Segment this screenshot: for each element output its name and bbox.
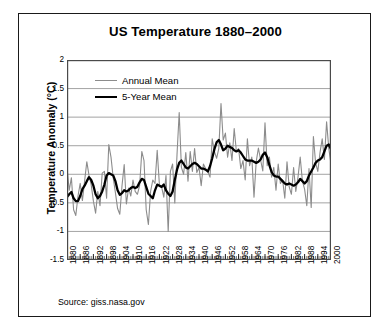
- y-axis-tick-label: 0.5: [53, 142, 64, 150]
- y-axis-tick-label: 0: [59, 170, 64, 178]
- legend-swatch-annual-mean-icon: [95, 80, 117, 81]
- x-axis-tick-label: 1928: [176, 246, 184, 264]
- y-axis-tick-label: 1: [59, 113, 64, 121]
- x-axis-tick-label: 1976: [281, 246, 289, 264]
- y-axis-tick-label: -1: [57, 227, 64, 235]
- x-axis-tick-label: 1880: [70, 246, 78, 264]
- legend-label-5-year-mean: 5-Year Mean: [122, 91, 177, 102]
- x-axis-tick-label: 1952: [229, 246, 237, 264]
- x-axis-tick-label: 1964: [255, 246, 263, 264]
- x-axis-tick-label: 1886: [83, 246, 91, 264]
- x-axis-tick-label: 1910: [136, 246, 144, 264]
- figure-frame: US Temperature 1880–2000 Temperature Ano…: [18, 13, 371, 317]
- x-axis-tick-label: 1982: [295, 246, 303, 264]
- x-axis-tick-label: 1892: [97, 246, 105, 264]
- x-axis-tick-label: 1988: [308, 246, 316, 264]
- x-axis-tick-label: 1946: [215, 246, 223, 264]
- x-axis-tick-label: 1994: [321, 246, 329, 264]
- y-axis-tick-labels: 21.510.50-0.5-1-1.5: [37, 60, 64, 261]
- y-axis-tick-label: -1.5: [50, 256, 64, 264]
- x-axis-tick-label: 1916: [149, 246, 157, 264]
- grid-lines: [67, 89, 331, 232]
- x-axis-tick-label: 1898: [110, 246, 118, 264]
- y-axis-tick-label: 2: [59, 56, 64, 64]
- x-axis-tick-label: 1970: [268, 246, 276, 264]
- x-axis-tick-label: 1904: [123, 246, 131, 264]
- y-axis-tick-label: 1.5: [53, 85, 64, 93]
- x-axis-tick-label: 1922: [163, 246, 171, 264]
- x-axis-tick-label: 1934: [189, 246, 197, 264]
- legend-label-annual-mean: Annual Mean: [122, 75, 179, 86]
- x-axis-tick-label: 1958: [242, 246, 250, 264]
- x-axis-tick-label: 2000: [334, 246, 342, 264]
- legend-item-annual-mean: Annual Mean: [95, 74, 225, 87]
- chart-title: US Temperature 1880–2000: [19, 24, 372, 39]
- legend-item-5-year-mean: 5-Year Mean: [95, 90, 225, 103]
- x-axis-tick-label: 1940: [202, 246, 210, 264]
- y-axis-tick-label: -0.5: [50, 199, 64, 207]
- chart-legend: Annual Mean 5-Year Mean: [95, 74, 225, 106]
- legend-swatch-5-year-mean-icon: [95, 96, 117, 98]
- source-note: Source: giss.nasa.gov: [58, 297, 145, 307]
